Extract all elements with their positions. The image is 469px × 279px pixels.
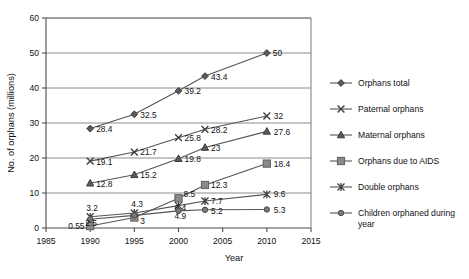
data-point-diamond <box>338 80 345 87</box>
data-point-label: 5.3 <box>274 205 286 215</box>
data-point-cross <box>175 134 182 141</box>
legend-item-children-orphaned-during-year[interactable]: Children orphaned duringyear <box>330 208 455 229</box>
y-tick-label: 30 <box>29 118 39 128</box>
y-tick-label: 50 <box>29 48 39 58</box>
x-tick-label: 2005 <box>213 236 232 246</box>
legend-label: Orphans due to AIDS <box>358 156 439 166</box>
x-tick-label: 2000 <box>169 236 188 246</box>
data-point-diamond <box>131 111 138 118</box>
data-point-label: 19.8 <box>185 154 202 164</box>
data-point-circle <box>132 213 137 218</box>
y-axis-title: No. of orphans (millions) <box>6 73 16 173</box>
legend-item-orphans-due-to-aids[interactable]: Orphans due to AIDS <box>330 156 439 166</box>
legend-item-maternal-orphans[interactable]: Maternal orphans <box>330 130 425 140</box>
data-point-label: 0.55 <box>68 221 85 231</box>
data-point-square <box>175 195 182 202</box>
data-point-label: 2.5 <box>85 218 97 228</box>
data-point-label: 23 <box>211 143 221 153</box>
data-point-label: 4.9 <box>175 211 187 221</box>
data-point-label: 4.3 <box>131 199 143 209</box>
y-tick-label: 20 <box>29 153 39 163</box>
data-point-label: 7.7 <box>211 196 223 206</box>
orphans-line-chart: 0102030405060198519901995200020052010201… <box>0 0 469 279</box>
data-point-label: 25.8 <box>185 133 202 143</box>
data-point-square <box>337 157 344 164</box>
x-tick-label: 1985 <box>36 236 55 246</box>
data-point-label: 43.4 <box>211 72 228 82</box>
legend-label: Children orphaned during <box>358 208 455 218</box>
data-point-circle <box>202 207 207 212</box>
chart-canvas: 0102030405060198519901995200020052010201… <box>0 0 469 279</box>
data-point-circle <box>338 210 343 215</box>
data-point-label: 32.5 <box>140 110 157 120</box>
legend-label: year <box>358 219 375 229</box>
data-point-label: 18.4 <box>274 159 291 169</box>
data-point-square <box>263 160 270 167</box>
data-point-label: 19.1 <box>96 157 113 167</box>
data-point-label: 50 <box>273 48 283 58</box>
data-point-label: 8.5 <box>184 189 196 199</box>
legend-item-orphans-total[interactable]: Orphans total <box>330 78 410 88</box>
legend-label: Maternal orphans <box>358 130 425 140</box>
legend-label: Orphans total <box>358 78 410 88</box>
legend-item-double-orphans[interactable]: Double orphans <box>330 182 419 192</box>
data-point-label: 9.6 <box>274 189 286 199</box>
series-orphans-total: 28.432.539.243.450 <box>87 48 283 134</box>
data-point-label: 28.4 <box>96 124 113 134</box>
data-point-triangle <box>263 128 270 135</box>
data-point-label: 21.7 <box>140 147 157 157</box>
data-point-label: 3 <box>140 216 145 226</box>
legend-item-paternal-orphans[interactable]: Paternal orphans <box>330 104 423 114</box>
data-point-diamond <box>263 50 270 57</box>
data-point-label: 39.2 <box>185 86 202 96</box>
x-tick-label: 1990 <box>81 236 100 246</box>
x-tick-label: 2010 <box>257 236 276 246</box>
data-point-label: 28.2 <box>211 125 228 135</box>
data-point-label: 12.3 <box>211 180 228 190</box>
data-point-label: 12.8 <box>96 179 113 189</box>
x-axis-title: Year <box>225 253 244 263</box>
x-tick-label: 1995 <box>125 236 144 246</box>
legend-label: Double orphans <box>358 182 419 192</box>
data-point-diamond <box>202 73 209 80</box>
legend-label: Paternal orphans <box>358 104 423 114</box>
y-tick-label: 0 <box>34 223 39 233</box>
data-point-label: 3.2 <box>86 203 98 213</box>
y-tick-label: 40 <box>29 83 39 93</box>
data-point-label: 32 <box>274 111 284 121</box>
data-point-label: 5.2 <box>211 206 223 216</box>
data-point-circle <box>264 207 269 212</box>
data-point-square <box>201 181 208 188</box>
y-tick-label: 60 <box>29 13 39 23</box>
data-point-label: 27.6 <box>274 127 291 137</box>
y-tick-label: 10 <box>29 188 39 198</box>
data-point-label: 15.2 <box>140 170 157 180</box>
data-point-diamond <box>87 125 94 132</box>
x-tick-label: 2015 <box>301 236 320 246</box>
